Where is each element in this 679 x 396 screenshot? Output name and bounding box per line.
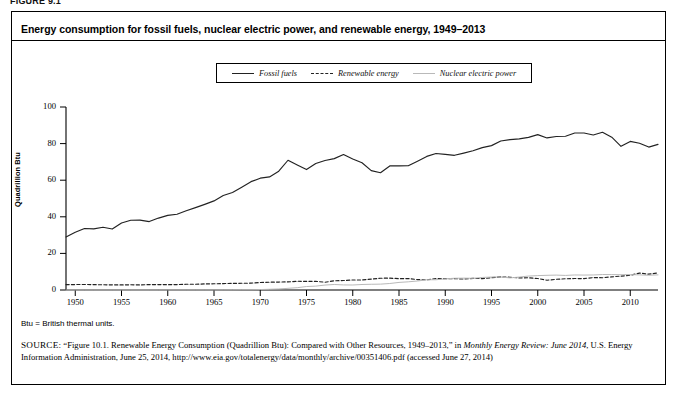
y-tick-label: 80 (30, 138, 56, 148)
x-tick-label: 1960 (153, 297, 183, 307)
chart-series-layer (66, 132, 658, 290)
x-tick-label: 1985 (384, 297, 414, 307)
x-tick-label: 1980 (338, 297, 368, 307)
x-tick-label: 1990 (430, 297, 460, 307)
x-tick-label: 2005 (569, 297, 599, 307)
x-tick-label: 1955 (107, 297, 137, 307)
x-tick-label: 1995 (477, 297, 507, 307)
x-tick-label: 1950 (60, 297, 90, 307)
y-axis-ticks (60, 107, 66, 290)
btu-footnote: Btu = British thermal units. (21, 319, 115, 328)
y-tick-label: 60 (30, 174, 56, 184)
x-tick-label: 1975 (292, 297, 322, 307)
y-tick-label: 100 (30, 101, 56, 111)
source-note: SOURCE: “Figure 10.1. Renewable Energy C… (21, 340, 649, 363)
y-tick-label: 40 (30, 211, 56, 221)
series-line-nuclear-electric-power (66, 275, 658, 290)
x-tick-label: 1965 (199, 297, 229, 307)
x-tick-label: 2010 (615, 297, 645, 307)
y-tick-label: 20 (30, 247, 56, 257)
x-tick-label: 2000 (523, 297, 553, 307)
source-text-1: “Figure 10.1. Renewable Energy Consumpti… (61, 340, 463, 350)
series-line-fossil-fuels (66, 132, 658, 237)
source-italic-title: Monthly Energy Review: June 2014 (463, 340, 586, 350)
source-label: SOURCE: (21, 340, 61, 350)
y-tick-label: 0 (30, 284, 56, 294)
x-axis-ticks (75, 290, 630, 296)
x-tick-label: 1970 (245, 297, 275, 307)
chart-plot-area (0, 0, 679, 396)
